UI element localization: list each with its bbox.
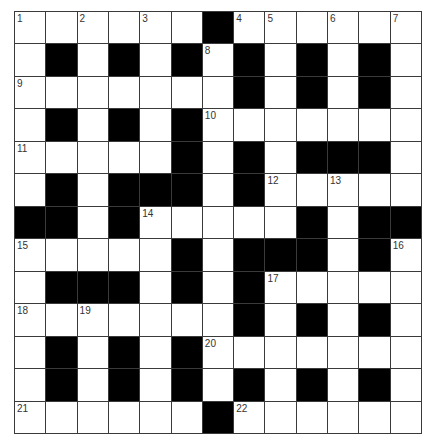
letter-cell[interactable]: [78, 109, 108, 140]
letter-cell[interactable]: 1: [15, 12, 45, 43]
letter-cell[interactable]: [328, 304, 358, 335]
letter-cell[interactable]: [109, 304, 139, 335]
letter-cell[interactable]: [109, 12, 139, 43]
letter-cell[interactable]: [297, 402, 327, 433]
letter-cell[interactable]: [46, 239, 76, 270]
letter-cell[interactable]: [15, 174, 45, 205]
letter-cell[interactable]: [15, 109, 45, 140]
letter-cell[interactable]: [265, 77, 295, 108]
letter-cell[interactable]: [172, 12, 202, 43]
letter-cell[interactable]: [140, 44, 170, 75]
letter-cell[interactable]: [15, 272, 45, 303]
letter-cell[interactable]: [265, 337, 295, 368]
letter-cell[interactable]: [328, 207, 358, 238]
letter-cell[interactable]: [328, 402, 358, 433]
letter-cell[interactable]: [297, 109, 327, 140]
letter-cell[interactable]: 19: [78, 304, 108, 335]
letter-cell[interactable]: 6: [328, 12, 358, 43]
letter-cell[interactable]: [391, 402, 421, 433]
letter-cell[interactable]: [265, 142, 295, 173]
letter-cell[interactable]: 15: [15, 239, 45, 270]
letter-cell[interactable]: [203, 369, 233, 400]
letter-cell[interactable]: [203, 304, 233, 335]
letter-cell[interactable]: [78, 77, 108, 108]
letter-cell[interactable]: [391, 304, 421, 335]
letter-cell[interactable]: [328, 77, 358, 108]
letter-cell[interactable]: 4: [234, 12, 264, 43]
letter-cell[interactable]: [391, 142, 421, 173]
letter-cell[interactable]: 18: [15, 304, 45, 335]
letter-cell[interactable]: [78, 174, 108, 205]
letter-cell[interactable]: [78, 402, 108, 433]
letter-cell[interactable]: 11: [15, 142, 45, 173]
letter-cell[interactable]: 12: [265, 174, 295, 205]
letter-cell[interactable]: 22: [234, 402, 264, 433]
letter-cell[interactable]: [109, 239, 139, 270]
letter-cell[interactable]: 10: [203, 109, 233, 140]
letter-cell[interactable]: 8: [203, 44, 233, 75]
letter-cell[interactable]: [15, 337, 45, 368]
letter-cell[interactable]: [46, 402, 76, 433]
letter-cell[interactable]: [391, 369, 421, 400]
letter-cell[interactable]: [172, 207, 202, 238]
letter-cell[interactable]: [140, 77, 170, 108]
letter-cell[interactable]: [140, 109, 170, 140]
letter-cell[interactable]: 20: [203, 337, 233, 368]
letter-cell[interactable]: [109, 142, 139, 173]
letter-cell[interactable]: [391, 44, 421, 75]
letter-cell[interactable]: [391, 77, 421, 108]
letter-cell[interactable]: [328, 337, 358, 368]
letter-cell[interactable]: [328, 44, 358, 75]
letter-cell[interactable]: [391, 174, 421, 205]
letter-cell[interactable]: [46, 12, 76, 43]
letter-cell[interactable]: [359, 109, 389, 140]
letter-cell[interactable]: [391, 109, 421, 140]
letter-cell[interactable]: [15, 369, 45, 400]
letter-cell[interactable]: [46, 142, 76, 173]
letter-cell[interactable]: 17: [265, 272, 295, 303]
letter-cell[interactable]: 16: [391, 239, 421, 270]
letter-cell[interactable]: [203, 272, 233, 303]
letter-cell[interactable]: 5: [265, 12, 295, 43]
letter-cell[interactable]: [328, 109, 358, 140]
letter-cell[interactable]: [265, 207, 295, 238]
letter-cell[interactable]: [140, 239, 170, 270]
letter-cell[interactable]: [359, 174, 389, 205]
letter-cell[interactable]: [328, 272, 358, 303]
letter-cell[interactable]: [359, 12, 389, 43]
letter-cell[interactable]: 21: [15, 402, 45, 433]
letter-cell[interactable]: [234, 207, 264, 238]
letter-cell[interactable]: [140, 402, 170, 433]
letter-cell[interactable]: [109, 77, 139, 108]
letter-cell[interactable]: 13: [328, 174, 358, 205]
letter-cell[interactable]: [234, 109, 264, 140]
letter-cell[interactable]: [265, 109, 295, 140]
letter-cell[interactable]: 3: [140, 12, 170, 43]
letter-cell[interactable]: [359, 402, 389, 433]
letter-cell[interactable]: [297, 12, 327, 43]
letter-cell[interactable]: [297, 337, 327, 368]
letter-cell[interactable]: [172, 77, 202, 108]
letter-cell[interactable]: [140, 337, 170, 368]
letter-cell[interactable]: [265, 369, 295, 400]
letter-cell[interactable]: [78, 207, 108, 238]
letter-cell[interactable]: [359, 272, 389, 303]
letter-cell[interactable]: [172, 304, 202, 335]
letter-cell[interactable]: [265, 44, 295, 75]
letter-cell[interactable]: 7: [391, 12, 421, 43]
letter-cell[interactable]: 9: [15, 77, 45, 108]
letter-cell[interactable]: [46, 77, 76, 108]
letter-cell[interactable]: [203, 239, 233, 270]
letter-cell[interactable]: [172, 402, 202, 433]
letter-cell[interactable]: [140, 272, 170, 303]
letter-cell[interactable]: [78, 142, 108, 173]
letter-cell[interactable]: [203, 174, 233, 205]
letter-cell[interactable]: [328, 369, 358, 400]
letter-cell[interactable]: [234, 337, 264, 368]
letter-cell[interactable]: [359, 337, 389, 368]
letter-cell[interactable]: [391, 337, 421, 368]
letter-cell[interactable]: 14: [140, 207, 170, 238]
letter-cell[interactable]: [391, 272, 421, 303]
letter-cell[interactable]: [78, 44, 108, 75]
letter-cell[interactable]: [140, 369, 170, 400]
